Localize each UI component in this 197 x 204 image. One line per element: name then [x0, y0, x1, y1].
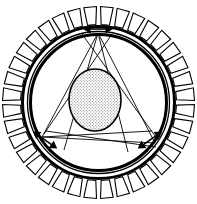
stator-cross-section-diagram: [0, 0, 197, 204]
diagram-canvas: [0, 0, 197, 204]
core-ellipse: [69, 69, 121, 131]
arrow-shaft: [87, 28, 108, 30]
